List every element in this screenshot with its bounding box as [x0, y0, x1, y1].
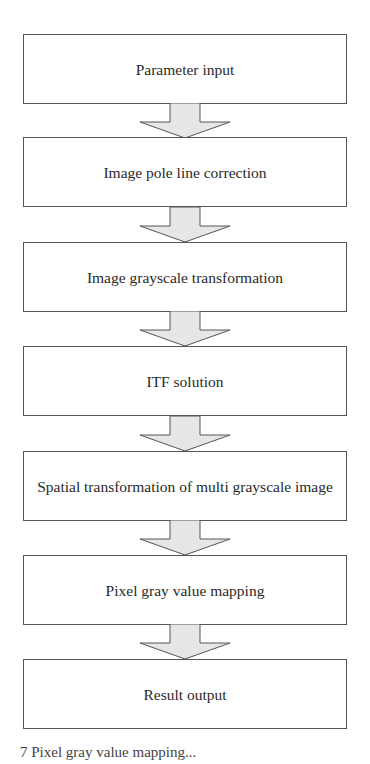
step-itf-solution: ITF solution	[23, 346, 347, 416]
step-spatial-transformation: Spatial transformation of multi grayscal…	[23, 451, 347, 521]
step-label: Pixel gray value mapping	[106, 582, 265, 599]
step-label: ITF solution	[146, 373, 223, 390]
down-arrow-icon	[139, 416, 231, 452]
step-label: Spatial transformation of multi grayscal…	[37, 478, 333, 495]
step-parameter-input: Parameter input	[23, 34, 347, 104]
step-label: Parameter input	[136, 61, 235, 78]
down-arrow-icon	[139, 207, 231, 243]
figure-caption: 7 Pixel gray value mapping...	[0, 744, 370, 764]
step-pixel-gray-value-mapping: Pixel gray value mapping	[23, 555, 347, 625]
down-arrow-icon	[139, 520, 231, 556]
step-label: Image grayscale transformation	[87, 269, 283, 286]
step-image-grayscale-transformation: Image grayscale transformation	[23, 242, 347, 312]
step-label: Image pole line correction	[103, 164, 266, 181]
step-result-output: Result output	[23, 659, 347, 729]
step-image-pole-line-correction: Image pole line correction	[23, 137, 347, 207]
down-arrow-icon	[139, 624, 231, 660]
step-label: Result output	[143, 686, 226, 703]
down-arrow-icon	[139, 311, 231, 347]
down-arrow-icon	[139, 103, 231, 139]
